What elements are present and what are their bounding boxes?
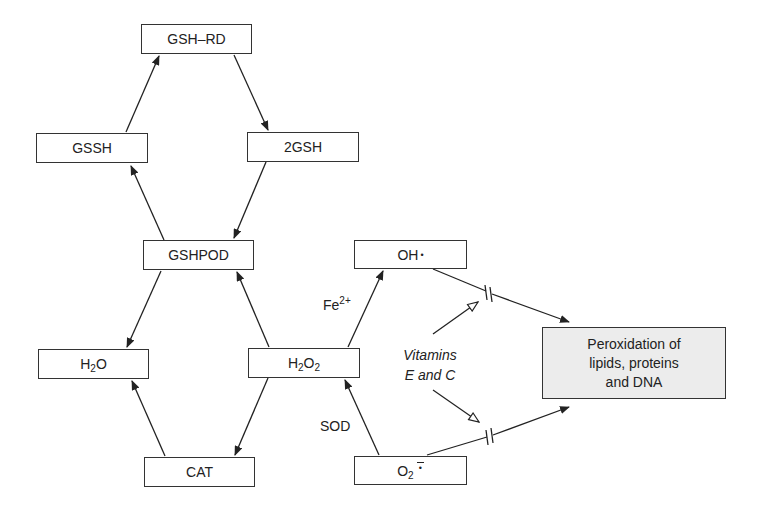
vitamins-arrow-up bbox=[433, 302, 478, 334]
edge-oh-to-peroxidation-a bbox=[433, 269, 486, 291]
label-fe2plus: Fe2+ bbox=[323, 297, 351, 313]
peroxidation-line-1: Peroxidation of bbox=[587, 335, 680, 354]
node-gshpod-label: GSHPOD bbox=[168, 247, 229, 263]
inhibit-bar-bottom-2 bbox=[491, 428, 493, 443]
edge-o2-to-peroxidation-b bbox=[493, 407, 569, 435]
node-gshpod: GSHPOD bbox=[143, 240, 254, 270]
edge-gshpod-to-h2o bbox=[127, 271, 161, 347]
edge-h2o2-to-oh bbox=[348, 271, 383, 347]
inhibit-bar-top-2 bbox=[490, 287, 492, 302]
vitamins-line-2: E and C bbox=[397, 365, 463, 385]
edge-h2o2-to-cat bbox=[235, 378, 268, 455]
node-o2-label: O2• bbox=[397, 463, 424, 479]
node-h2o2: H2O2 bbox=[248, 348, 360, 378]
node-2gsh-label: 2GSH bbox=[284, 139, 322, 155]
vitamins-arrow-down bbox=[433, 390, 479, 422]
node-superoxide: O2• bbox=[354, 456, 467, 485]
node-h2o-label: H2O bbox=[80, 356, 107, 372]
node-oh-label: OH bbox=[397, 247, 418, 263]
node-h2o: H2O bbox=[38, 349, 149, 379]
edge-o2-to-peroxidation-a bbox=[427, 437, 487, 455]
node-cat: CAT bbox=[144, 457, 255, 487]
edge-2gsh-to-gshpod bbox=[234, 162, 266, 238]
radical-anion-icon: • bbox=[417, 463, 424, 473]
edge-oh-to-peroxidation-b bbox=[492, 294, 569, 322]
edge-gshpod-to-gssh bbox=[131, 166, 164, 240]
node-cat-label: CAT bbox=[186, 464, 213, 480]
node-gsh-rd: GSH–RD bbox=[141, 24, 252, 54]
node-gssh: GSSH bbox=[36, 133, 148, 163]
node-oh-radical: OH• bbox=[354, 240, 467, 269]
node-2gsh: 2GSH bbox=[247, 132, 359, 162]
edge-gshrd-to-2gsh bbox=[234, 55, 268, 130]
node-gssh-label: GSSH bbox=[72, 140, 112, 156]
inhibit-bar-top-1 bbox=[485, 285, 487, 300]
radical-dot-icon: • bbox=[420, 250, 423, 260]
edge-cat-to-h2o bbox=[132, 381, 165, 456]
node-h2o2-label: H2O2 bbox=[288, 355, 320, 371]
node-gsh-rd-label: GSH–RD bbox=[167, 31, 225, 47]
edge-h2o2-to-gshpod bbox=[237, 272, 269, 347]
peroxidation-line-2: lipids, proteins bbox=[589, 354, 679, 373]
node-peroxidation: Peroxidation of lipids, proteins and DNA bbox=[542, 327, 726, 399]
label-vitamins: Vitamins E and C bbox=[397, 345, 463, 385]
label-sod: SOD bbox=[320, 418, 350, 434]
edge-gssh-to-gshrd bbox=[126, 56, 159, 132]
peroxidation-line-3: and DNA bbox=[606, 373, 663, 392]
vitamins-line-1: Vitamins bbox=[397, 345, 463, 365]
